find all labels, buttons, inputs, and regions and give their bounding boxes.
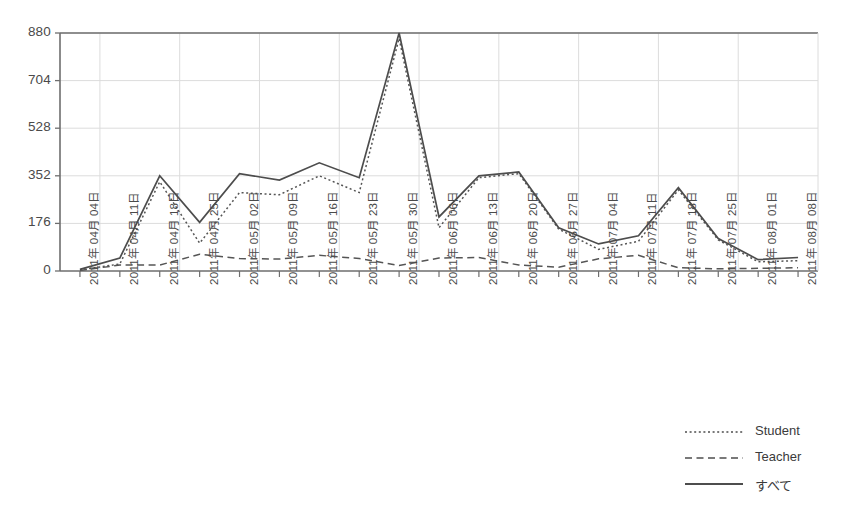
x-axis-label: 2011年 07月 18日 bbox=[683, 191, 699, 285]
legend-label-すべて: すべて bbox=[755, 475, 792, 494]
y-axis-label: 0 bbox=[43, 262, 51, 277]
legend-label-teacher: Teacher bbox=[755, 449, 801, 464]
x-axis-label: 2011年 05月 09日 bbox=[284, 191, 300, 285]
x-axis-label: 2011年 08月 08日 bbox=[803, 191, 819, 285]
x-axis-label: 2011年 05月 16日 bbox=[324, 191, 340, 285]
x-axis-label: 2011年 06月 06日 bbox=[444, 191, 460, 285]
x-axis-label: 2011年 06月 13日 bbox=[484, 191, 500, 285]
x-axis-label: 2011年 05月 02日 bbox=[245, 191, 261, 285]
x-axis-label: 2011年 04月 04日 bbox=[85, 191, 101, 285]
x-axis-label: 2011年 06月 20日 bbox=[524, 191, 540, 285]
y-axis-label: 880 bbox=[28, 24, 51, 39]
x-axis-label: 2011年 07月 25日 bbox=[723, 191, 739, 285]
chart-page: 01763525287048802011年 04月 04日2011年 04月 1… bbox=[0, 0, 846, 505]
x-axis-label: 2011年 06月 27日 bbox=[564, 191, 580, 285]
x-axis-label: 2011年 04月 11日 bbox=[125, 192, 141, 285]
legend-label-student: Student bbox=[755, 423, 800, 438]
y-axis-label: 176 bbox=[28, 214, 51, 229]
x-axis-label: 2011年 05月 30日 bbox=[404, 191, 420, 285]
y-axis-label: 528 bbox=[28, 119, 51, 134]
x-axis-label: 2011年 05月 23日 bbox=[364, 191, 380, 285]
x-axis-label: 2011年 07月 04日 bbox=[604, 191, 620, 285]
x-axis-label: 2011年 04月 25日 bbox=[205, 191, 221, 285]
y-axis-label: 352 bbox=[28, 167, 51, 182]
x-axis-label: 2011年 08月 01日 bbox=[763, 191, 779, 285]
line-chart: 01763525287048802011年 04月 04日2011年 04月 1… bbox=[0, 0, 846, 505]
y-axis-label: 704 bbox=[28, 72, 51, 87]
x-axis-label: 2011年 04月 18日 bbox=[165, 191, 181, 285]
x-axis-label: 2011年 07月 11日 bbox=[643, 192, 659, 285]
